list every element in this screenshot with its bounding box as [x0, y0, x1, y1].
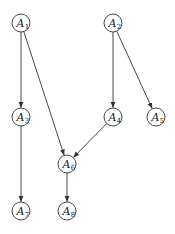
node-a1: A1: [12, 14, 30, 32]
node-a8: A8: [58, 202, 76, 220]
node-a5: A5: [147, 108, 165, 126]
node-a3: A3: [12, 108, 30, 126]
edge-a2-to-a5: [117, 31, 152, 108]
edge-a4-to-a6: [74, 123, 107, 157]
edges-layer: [21, 31, 152, 201]
node-a2: A2: [104, 14, 122, 32]
nodes-layer: A1A2A3A4A5A6A7A8: [12, 14, 165, 220]
node-a4: A4: [104, 108, 122, 126]
node-a7: A7: [12, 202, 30, 220]
edge-a1-to-a6: [24, 32, 64, 155]
dag-diagram: A1A2A3A4A5A6A7A8: [0, 0, 175, 234]
node-a6: A6: [58, 155, 76, 173]
